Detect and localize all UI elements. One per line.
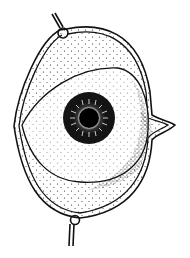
pupil: [79, 108, 99, 128]
iris: [63, 92, 115, 144]
bottom-hook: [69, 216, 80, 247]
eye-illustration: [0, 0, 190, 258]
